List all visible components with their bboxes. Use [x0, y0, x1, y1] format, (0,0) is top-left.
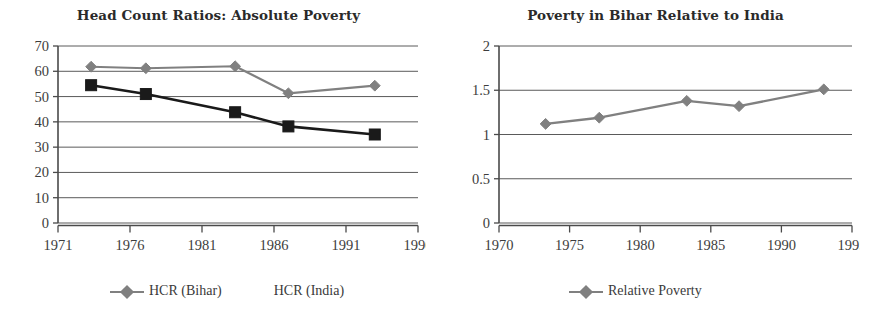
- legend-label: Relative Poverty: [608, 283, 702, 300]
- data-point-marker: [230, 107, 241, 118]
- data-point-marker: [681, 95, 692, 106]
- chart-panel-right: Poverty in Bihar Relative to India 00.51…: [437, 0, 874, 324]
- y-tick-label: 0: [42, 215, 49, 231]
- y-tick-label: 60: [35, 63, 50, 79]
- series-line: [546, 89, 824, 124]
- data-point-marker: [369, 80, 380, 91]
- legend-marker: [120, 284, 134, 298]
- series-line: [91, 66, 375, 93]
- data-point-marker: [86, 61, 97, 72]
- x-tick-label: 1970: [485, 237, 514, 253]
- diamond-icon: [569, 285, 603, 299]
- x-tick-label: 1991: [332, 237, 361, 253]
- legend-entry[interactable]: HCR (India): [274, 283, 344, 300]
- legend-label: HCR (Bihar): [149, 283, 222, 300]
- legend-entry[interactable]: Relative Poverty: [569, 283, 702, 300]
- legend-entry[interactable]: HCR (Bihar): [110, 283, 222, 300]
- data-point-marker: [594, 112, 605, 123]
- data-point-marker: [369, 129, 380, 140]
- diamond-icon: [110, 285, 144, 299]
- line-chart-left: 010203040506070197119761981198619911996: [16, 36, 426, 261]
- y-tick-label: 1.5: [472, 82, 490, 98]
- x-tick-label: 1995: [838, 237, 861, 253]
- x-tick-label: 1971: [44, 237, 73, 253]
- line-chart-right: 00.511.52197019751980198519901995: [455, 36, 860, 261]
- y-tick-label: 40: [35, 114, 50, 130]
- x-tick-label: 1996: [404, 237, 427, 253]
- y-tick-label: 0.5: [472, 171, 490, 187]
- data-point-marker: [230, 61, 241, 72]
- y-tick-label: 20: [35, 164, 50, 180]
- data-point-marker: [540, 118, 551, 129]
- data-point-marker: [283, 121, 294, 132]
- x-tick-label: 1990: [767, 237, 796, 253]
- x-tick-label: 1981: [188, 237, 217, 253]
- chart-panel-left: Head Count Ratios: Absolute Poverty 0102…: [0, 0, 437, 324]
- x-tick-label: 1976: [116, 237, 145, 253]
- y-tick-label: 0: [483, 215, 490, 231]
- plot-area-left: 010203040506070197119761981198619911996: [16, 36, 426, 261]
- data-point-marker: [734, 101, 745, 112]
- x-tick-label: 1980: [626, 237, 655, 253]
- y-tick-label: 50: [35, 89, 50, 105]
- legend-label: HCR (India): [274, 283, 344, 300]
- plot-area-right: 00.511.52197019751980198519901995: [455, 36, 860, 261]
- legend-left: HCR (Bihar)HCR (India): [110, 283, 344, 300]
- y-tick-label: 10: [35, 190, 50, 206]
- data-point-marker: [140, 63, 151, 74]
- y-tick-label: 70: [35, 38, 50, 54]
- legend-marker: [579, 284, 593, 298]
- chart-title-left: Head Count Ratios: Absolute Poverty: [0, 7, 437, 23]
- legend-right: Relative Poverty: [569, 283, 702, 300]
- chart-title-right: Poverty in Bihar Relative to India: [437, 7, 874, 23]
- figure-root: Head Count Ratios: Absolute Poverty 0102…: [0, 0, 875, 324]
- y-tick-label: 1: [483, 127, 490, 143]
- x-tick-label: 1975: [555, 237, 584, 253]
- x-tick-label: 1985: [696, 237, 725, 253]
- x-tick-label: 1986: [260, 237, 289, 253]
- data-point-marker: [86, 80, 97, 91]
- data-point-marker: [140, 89, 151, 100]
- data-point-marker: [818, 84, 829, 95]
- y-tick-label: 30: [35, 139, 50, 155]
- y-tick-label: 2: [483, 38, 490, 54]
